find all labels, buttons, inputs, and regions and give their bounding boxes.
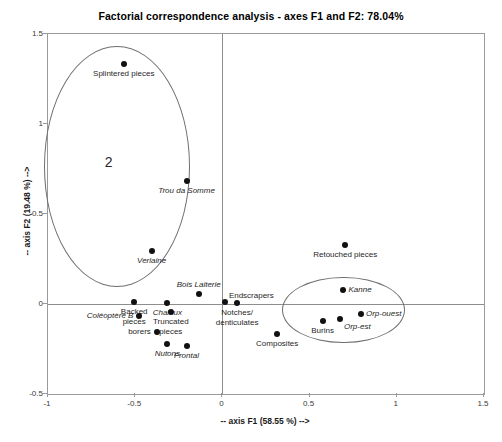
y-tick-mark: [43, 303, 47, 304]
x-tick-label: 0: [219, 399, 223, 408]
x-tick-label: 1: [394, 399, 398, 408]
axis-zero-horizontal: [48, 304, 484, 305]
data-point: [121, 61, 127, 67]
x-tick-mark: [309, 393, 310, 397]
data-point-label: Coléoptère B: [87, 311, 134, 321]
chart-figure: Factorial correspondence analysis - axes…: [0, 0, 502, 442]
group-ellipse: [44, 46, 190, 287]
data-point-label: Composites: [256, 339, 298, 349]
y-tick-label: 1: [17, 119, 43, 128]
right-margin-cutoff: [492, 300, 502, 410]
x-tick-mark: [134, 393, 135, 397]
data-point: [320, 318, 326, 324]
data-point: [274, 331, 280, 337]
data-point-label: Verlaine: [137, 256, 166, 266]
chart-title: Factorial correspondence analysis - axes…: [0, 10, 502, 22]
x-tick-label: -1: [43, 399, 50, 408]
data-point-label: Frontal: [174, 351, 199, 361]
data-point: [184, 343, 190, 349]
data-point-label: Orp-est: [344, 322, 371, 332]
axis-zero-vertical: [222, 34, 223, 394]
data-point-label: Trou da Somme: [158, 186, 215, 196]
data-point-label: Bois Laiterie: [177, 280, 221, 290]
x-tick-label: -0.5: [127, 399, 141, 408]
data-point-label: Retouched pieces: [313, 250, 377, 260]
y-tick-label: -0.5: [17, 389, 43, 398]
y-tick-label: 0: [17, 299, 43, 308]
data-point-label: borers: [128, 327, 151, 337]
data-point: [358, 311, 364, 317]
data-point-label: Notches/denticulates: [216, 308, 259, 327]
x-tick-mark: [396, 393, 397, 397]
y-tick-label: 0.5: [17, 209, 43, 218]
data-point: [196, 291, 202, 297]
data-point-label: Burins: [311, 326, 334, 336]
data-point: [154, 329, 160, 335]
group-number-label: 2: [105, 154, 113, 170]
y-tick-mark: [43, 393, 47, 394]
x-tick-mark: [483, 393, 484, 397]
data-point-label: Splintered pieces: [93, 69, 154, 79]
x-axis-label: -- axis F1 (58.55 %) -->: [47, 416, 483, 426]
data-point-label: Kanne: [348, 285, 371, 295]
x-tick-label: 1.5: [477, 399, 488, 408]
x-tick-mark: [221, 393, 222, 397]
data-point: [184, 178, 190, 184]
data-point: [222, 299, 228, 305]
data-point: [168, 309, 174, 315]
y-tick-mark: [43, 123, 47, 124]
x-tick-label: 0.5: [303, 399, 314, 408]
data-point-label: Orp-ouest: [366, 309, 402, 319]
y-tick-label: 1.5: [17, 29, 43, 38]
x-tick-mark: [47, 393, 48, 397]
data-point: [149, 248, 155, 254]
y-tick-mark: [43, 213, 47, 214]
y-tick-mark: [43, 33, 47, 34]
